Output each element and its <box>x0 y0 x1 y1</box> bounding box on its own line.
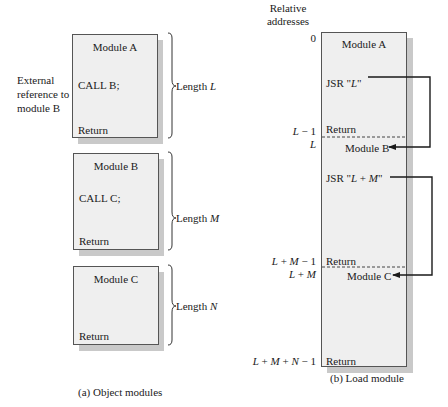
diagram-lines <box>0 0 448 407</box>
brace-length-m-icon <box>168 152 176 250</box>
brace-length-l-icon <box>168 33 176 138</box>
brace-length-n-icon <box>168 265 176 345</box>
jump-arrow-to-module-c-icon <box>390 177 432 275</box>
